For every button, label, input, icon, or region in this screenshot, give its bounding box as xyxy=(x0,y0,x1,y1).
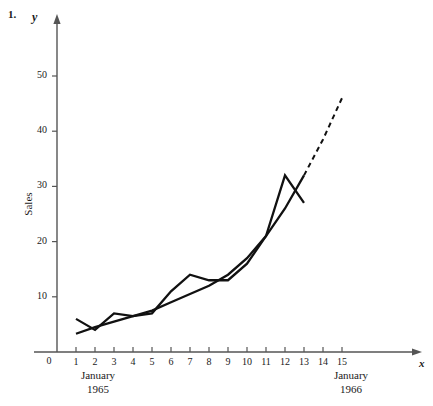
y-tick-label: 30 xyxy=(25,179,47,190)
x-tick-label: 10 xyxy=(238,356,256,367)
x-tick-label: 8 xyxy=(200,356,218,367)
x-tick-label: 14 xyxy=(314,356,332,367)
x-tick-label: 5 xyxy=(143,356,161,367)
axes-layer xyxy=(34,14,422,356)
ticks-layer xyxy=(52,76,342,352)
series-line xyxy=(76,175,304,330)
chart-container: 1. y x Sales 0 January 1965 January 1966… xyxy=(0,0,433,406)
x-tick-label: 7 xyxy=(181,356,199,367)
x-tick-label: 1 xyxy=(67,356,85,367)
plot-area xyxy=(0,0,433,406)
x-tick-label: 15 xyxy=(333,356,351,367)
series-layer xyxy=(76,98,342,334)
y-tick-label: 20 xyxy=(25,235,47,246)
series-line xyxy=(76,175,304,333)
y-tick-label: 40 xyxy=(25,124,47,135)
x-tick-label: 12 xyxy=(276,356,294,367)
series-line xyxy=(304,98,342,175)
x-tick-label: 4 xyxy=(124,356,142,367)
x-tick-label: 13 xyxy=(295,356,313,367)
y-tick-label: 10 xyxy=(25,290,47,301)
x-tick-label: 3 xyxy=(105,356,123,367)
x-tick-label: 2 xyxy=(86,356,104,367)
x-tick-label: 11 xyxy=(257,356,275,367)
x-tick-label: 6 xyxy=(162,356,180,367)
y-tick-label: 50 xyxy=(25,69,47,80)
x-tick-label: 9 xyxy=(219,356,237,367)
